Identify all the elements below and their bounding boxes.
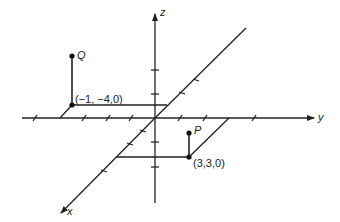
point-q — [69, 53, 74, 58]
point-q-label: Q — [77, 50, 86, 61]
point-q-base — [69, 102, 74, 107]
x-axis-label: x — [67, 206, 73, 217]
point-p-label: P — [194, 125, 201, 136]
q-projection — [60, 105, 167, 118]
x-axis-back — [155, 28, 246, 118]
x-axis — [61, 118, 155, 213]
point-p-base — [186, 154, 191, 159]
p-projection — [116, 118, 229, 157]
point-q-base-label: (−1, −4,0) — [75, 94, 123, 105]
z-axis-label: z — [160, 7, 166, 18]
point-p-base-label: (3,3,0) — [193, 158, 225, 169]
y-axis-label: y — [318, 112, 324, 123]
axes-diagram — [0, 0, 340, 222]
point-p — [186, 130, 191, 135]
